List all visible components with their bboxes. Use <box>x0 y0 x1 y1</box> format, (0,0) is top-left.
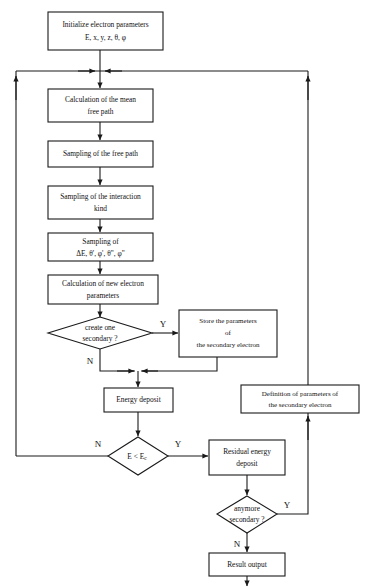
node-energy-deposit[interactable]: Energy deposit <box>104 388 173 412</box>
node-create-secondary-line2: secondary ? <box>82 334 117 343</box>
node-anymore-secondary-decision[interactable]: anymore secondary ? Y N <box>217 496 291 549</box>
node-residual-line2: deposit <box>236 459 258 468</box>
node-sik-line1: Sampling of the interaction <box>60 192 141 201</box>
node-store-secondary-parameters[interactable]: Store the parameters of the secondary el… <box>179 310 277 357</box>
branch-label-threshold-yes: Y <box>175 439 182 449</box>
node-energy-threshold-decision[interactable]: E < Ec N Y <box>95 437 182 475</box>
branch-label-create-secondary-no: N <box>87 356 94 366</box>
branch-label-anymore-yes: Y <box>284 500 291 510</box>
node-create-secondary-line1: create one <box>85 323 116 332</box>
node-energy-deposit-line1: Energy deposit <box>116 395 161 404</box>
node-result-line1: Result output <box>227 560 268 569</box>
node-sde-line1: Sampling of <box>82 237 119 246</box>
node-initialize-line1: Initialize electron parameters <box>62 20 148 29</box>
node-initialize-line2: E, x, y, z, θ, φ <box>85 33 126 42</box>
connector-secondary-no-to-merge <box>100 349 135 371</box>
node-calculation-mean-free-path[interactable]: Calculation of the mean free path <box>48 89 153 122</box>
node-anymore-line1: anymore <box>234 504 261 513</box>
node-mfp-line1: Calculation of the mean <box>65 95 136 104</box>
node-initialize-electron-parameters[interactable]: Initialize electron parameters E, x, y, … <box>48 12 163 50</box>
node-residual-line1: Residual energy <box>223 447 271 456</box>
node-mfp-line2: free path <box>87 107 113 116</box>
node-definition-secondary-parameters[interactable]: Definition of parameters of the secondar… <box>241 385 359 413</box>
node-store-line2: of <box>225 329 232 337</box>
branch-label-create-secondary-yes: Y <box>160 319 167 329</box>
node-result-output[interactable]: Result output <box>209 553 285 576</box>
flowchart-canvas: Initialize electron parameters E, x, y, … <box>0 0 369 588</box>
node-store-line3: the secondary electron <box>197 341 260 349</box>
branch-label-threshold-no: N <box>95 439 102 449</box>
node-definition-line1: Definition of parameters of <box>262 390 339 398</box>
node-sampling-free-path[interactable]: Sampling of the free path <box>48 141 153 167</box>
node-store-line1: Store the parameters <box>199 317 257 325</box>
flowchart-svg: Initialize electron parameters E, x, y, … <box>0 0 369 588</box>
branch-label-anymore-no: N <box>234 539 241 549</box>
node-residual-box <box>209 440 285 475</box>
node-sik-line2: kind <box>94 204 107 213</box>
node-sde-line2: ΔE, θ', φ', θ", φ" <box>76 249 124 258</box>
node-create-one-secondary-decision[interactable]: create one secondary ? Y N <box>48 317 167 366</box>
node-initialize-box <box>48 12 163 50</box>
node-sampling-interaction-kind[interactable]: Sampling of the interaction kind <box>48 186 153 219</box>
node-sfp-line1: Sampling of the free path <box>63 149 138 158</box>
node-cnp-line2: parameters <box>87 291 120 300</box>
node-residual-energy-deposit[interactable]: Residual energy deposit <box>209 440 285 475</box>
node-sampling-energy-angles[interactable]: Sampling of ΔE, θ', φ', θ", φ" <box>48 233 153 261</box>
node-calculation-new-parameters[interactable]: Calculation of new electron parameters <box>48 275 158 304</box>
node-cnp-line1: Calculation of new electron <box>62 279 144 288</box>
connector-store-to-merge <box>141 357 217 371</box>
node-anymore-line2: secondary ? <box>229 515 264 524</box>
node-definition-line2: the secondary electron <box>269 401 332 409</box>
